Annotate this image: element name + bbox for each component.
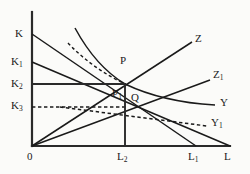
x-tick-label-origin: 0: [27, 151, 33, 162]
point-label-p: P: [120, 55, 126, 66]
y-tick-label-k3: K3: [11, 100, 23, 111]
x-tick-label-l2: L2: [117, 151, 127, 162]
curve-label-z: Z: [195, 33, 202, 44]
point-label-q: Q: [131, 92, 139, 103]
output-curve-y1-dashed: [60, 107, 207, 126]
curve-label-z1: Z1: [213, 69, 223, 80]
curve-label-y: Y: [220, 97, 228, 108]
x-tick-label-l1: L1: [188, 151, 198, 162]
diagram-canvas: [0, 0, 250, 174]
x-tick-label-l: L: [224, 151, 231, 162]
y-tick-label-k2: K2: [11, 78, 23, 89]
point-label-p1: P1: [112, 88, 122, 99]
y-tick-label-k1: K1: [11, 56, 23, 67]
curve-label-y1: Y1: [211, 117, 223, 128]
y-tick-label-k: K: [15, 28, 23, 39]
economics-diagram-figure: K K1 K2 K3 0 L2 L1 L Z Z1 Y Y1 P P1 Q: [0, 0, 250, 174]
